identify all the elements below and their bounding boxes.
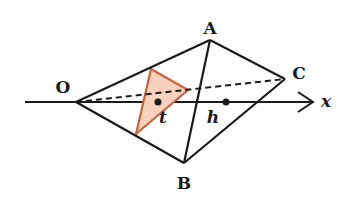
label-O: O <box>56 77 71 97</box>
label-B: B <box>177 173 191 193</box>
label-h: h <box>207 107 219 127</box>
edge-OB <box>76 102 184 163</box>
label-t: t <box>159 107 167 127</box>
label-A: A <box>202 18 217 38</box>
point-h <box>223 99 230 106</box>
label-C: C <box>292 63 306 83</box>
point-t <box>155 99 162 106</box>
tetrahedron-diagram: O A B C x t h <box>0 0 359 208</box>
label-x-axis: x <box>320 91 332 111</box>
edge-OC-hidden <box>76 79 285 102</box>
edge-AC <box>210 40 285 79</box>
edge-OA <box>76 40 210 102</box>
